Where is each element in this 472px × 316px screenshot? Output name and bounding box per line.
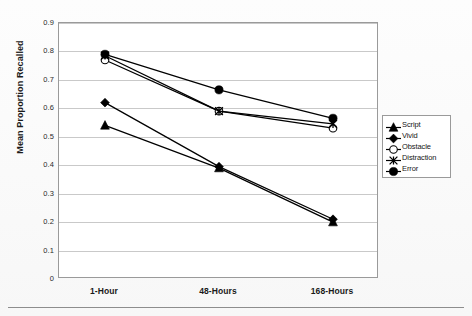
data-point-diamond-filled [329,215,338,224]
data-point-circle-filled [389,167,397,175]
line-chart-figure: Mean Proportion Recalled 0.90.80.70.60.5… [0,0,472,316]
x-tick-label: 168-Hours [311,286,353,296]
legend-item-label: Obstacle [402,141,431,152]
data-point-triangle-filled [101,121,110,130]
legend: ScriptVividObstacleDistractionError [382,115,451,178]
series-layer [59,23,379,279]
data-point-diamond-filled [101,98,110,107]
plot-area [58,22,378,278]
data-point-circle-filled [215,86,223,94]
y-tick-label: 0.2 [20,217,54,226]
legend-marker-diamond-filled-icon [385,130,402,141]
data-point-circle-filled [329,114,337,122]
legend-marker-circle-filled-icon [385,163,402,174]
y-tick-label: 0 [20,274,54,283]
legend-marker-circle-open-icon [385,141,402,152]
legend-item-label: Error [402,163,418,174]
y-tick-label: 0.6 [20,103,54,112]
legend-item-vivid[interactable]: Vivid [385,130,447,141]
x-tick-label: 1-Hour [90,286,118,296]
y-tick-label: 0.4 [20,160,54,169]
y-tick-label: 0.1 [20,245,54,254]
legend-item-label: Distraction [402,152,436,163]
x-axis-tick-labels: 1-Hour48-Hours168-Hours [58,286,378,300]
y-axis-tick-labels: 0.90.80.70.60.50.40.30.20.10 [18,22,54,278]
legend-item-label: Vivid [402,130,418,141]
series-script [101,121,338,226]
legend-item-script[interactable]: Script [385,119,447,130]
y-tick-label: 0.8 [20,46,54,55]
legend-marker-x-cross-icon [385,152,402,163]
y-tick-label: 0.3 [20,188,54,197]
legend-marker-triangle-filled-icon [385,119,402,130]
legend-item-label: Script [402,119,421,130]
y-tick-label: 0.5 [20,131,54,140]
x-tick-label: 48-Hours [199,286,237,296]
series-vivid [101,98,338,223]
legend-item-error[interactable]: Error [385,163,447,174]
legend-item-obstacle[interactable]: Obstacle [385,141,447,152]
y-tick-label: 0.7 [20,74,54,83]
y-tick-label: 0.9 [20,18,54,27]
data-point-circle-filled [101,50,109,58]
legend-item-distraction[interactable]: Distraction [385,152,447,163]
page-bottom-rule [8,307,464,308]
